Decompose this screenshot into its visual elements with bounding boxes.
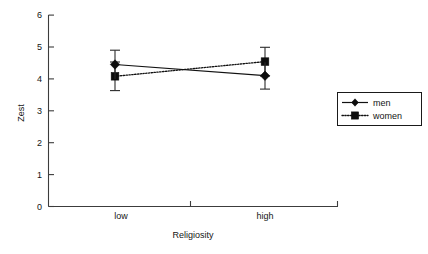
y-tick-label-5: 5 xyxy=(37,42,42,52)
y-tick-label-0: 0 xyxy=(37,202,42,212)
x-axis-title: Religiosity xyxy=(172,230,214,240)
y-tick-label-6: 6 xyxy=(37,10,42,20)
legend-label-women: women xyxy=(372,111,402,121)
legend-marker-women-square-icon xyxy=(351,112,358,119)
line-chart-svg: 0 1 2 3 4 5 6 low high Religiosity Zest xyxy=(0,0,428,254)
y-axis-title: Zest xyxy=(16,104,26,122)
series-men xyxy=(110,50,270,89)
y-tick-label-2: 2 xyxy=(37,138,42,148)
x-tick-label-high: high xyxy=(256,211,273,221)
y-axis-ticks xyxy=(49,15,55,206)
marker-men-high xyxy=(260,71,269,80)
chart-legend[interactable]: men women xyxy=(338,93,422,126)
marker-men-low xyxy=(110,60,119,69)
y-tick-label-3: 3 xyxy=(37,106,42,116)
y-tick-label-4: 4 xyxy=(37,74,42,84)
series-women xyxy=(110,47,270,90)
x-tick-label-low: low xyxy=(114,211,128,221)
y-tick-label-1: 1 xyxy=(37,170,42,180)
chart-figure: 0 1 2 3 4 5 6 low high Religiosity Zest xyxy=(0,0,428,254)
legend-label-men: men xyxy=(373,98,391,108)
